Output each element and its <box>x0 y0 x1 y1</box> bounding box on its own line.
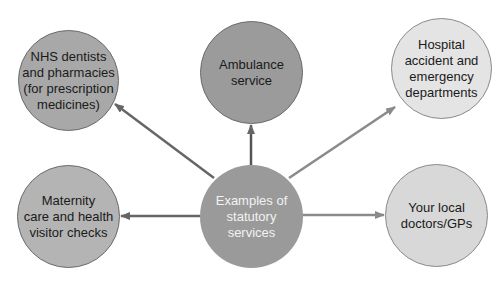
node-label: Your local doctors/GPs <box>401 200 473 232</box>
node-center-statutory-services: Examples of statutory services <box>200 165 303 268</box>
node-local-gps: Your local doctors/GPs <box>385 164 488 267</box>
node-label: Hospital accident and emergency departme… <box>405 37 479 101</box>
arrow-to-nhs <box>115 104 214 178</box>
node-hospital-ae: Hospital accident and emergency departme… <box>391 18 492 119</box>
node-ambulance-service: Ambulance service <box>200 21 303 124</box>
node-label: NHS dentists and pharmacies (for prescri… <box>22 49 115 113</box>
arrow-to-hospital <box>289 107 395 178</box>
node-maternity-care: Maternity care and health visitor checks <box>17 165 120 268</box>
node-label: Ambulance service <box>219 57 284 89</box>
node-label: Maternity care and health visitor checks <box>24 193 114 241</box>
center-label: Examples of statutory services <box>216 193 288 241</box>
node-nhs-dentists-pharmacies: NHS dentists and pharmacies (for prescri… <box>18 30 119 131</box>
